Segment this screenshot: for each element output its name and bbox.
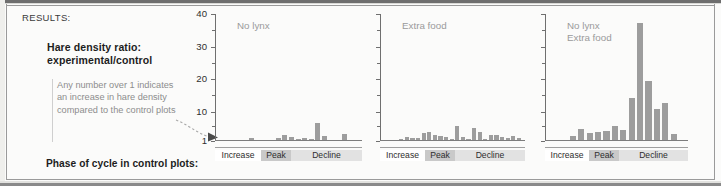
panel-top-border xyxy=(6,5,715,6)
bar xyxy=(517,138,521,140)
bar xyxy=(461,137,465,140)
bar xyxy=(296,139,301,140)
y-axis-tick-label: 1 xyxy=(183,135,207,146)
phase-segment-peak: Peak xyxy=(261,150,291,161)
bar xyxy=(603,131,609,140)
phase-segment-decline: Decline xyxy=(619,150,688,161)
phase-band-rule xyxy=(545,147,688,148)
bar xyxy=(483,139,487,140)
bar xyxy=(427,132,431,140)
y-axis-tick-label: 30 xyxy=(183,41,207,52)
y-axis-heading: Hare density ratio: experimental/control xyxy=(47,41,197,67)
bar xyxy=(422,133,426,140)
bar xyxy=(511,136,515,140)
bar xyxy=(450,139,454,140)
phase-band: IncreasePeakDecline xyxy=(215,150,362,161)
phase-segment-decline: Decline xyxy=(291,150,362,161)
phase-segment-label: Decline xyxy=(291,150,362,161)
bar xyxy=(342,134,347,141)
bar xyxy=(302,138,307,140)
bar xyxy=(629,98,635,140)
bar xyxy=(478,132,482,141)
note-text: Any number over 1 indicates an increase … xyxy=(57,79,179,116)
bar xyxy=(494,135,498,140)
phase-band: IncreasePeakDecline xyxy=(545,150,688,161)
chart-axis-tick xyxy=(541,141,545,142)
phase-segment-label: Increase xyxy=(215,150,261,161)
bar xyxy=(309,139,314,140)
bar xyxy=(595,132,601,140)
phase-segment-label: Peak xyxy=(589,150,619,161)
bar xyxy=(472,128,476,140)
bar xyxy=(662,103,668,140)
bar xyxy=(466,139,470,140)
bar xyxy=(455,126,459,140)
bar xyxy=(587,133,593,140)
phase-segment-peak: Peak xyxy=(425,150,455,161)
phase-band-rule xyxy=(215,147,362,148)
plot-area xyxy=(380,14,525,140)
phase-segment-peak: Peak xyxy=(589,150,619,161)
bar xyxy=(671,134,677,141)
bar xyxy=(645,81,651,140)
panel-bottom-border xyxy=(6,179,715,180)
bar xyxy=(322,136,327,140)
bar xyxy=(637,23,643,140)
bar-chart-1: No lynx xyxy=(215,14,362,141)
phase-segment-label: Increase xyxy=(380,150,425,161)
baseline-at-one xyxy=(380,140,525,141)
plot-area xyxy=(545,14,688,140)
page-bottom-rule xyxy=(0,183,721,186)
bar xyxy=(570,136,576,140)
note-divider xyxy=(52,79,53,142)
plot-area xyxy=(215,14,362,140)
baseline-at-one xyxy=(215,140,362,141)
bar xyxy=(282,135,287,140)
panel-right-border xyxy=(714,4,715,180)
phase-band-rule xyxy=(380,147,525,148)
page-top-rule-secondary xyxy=(0,3,721,4)
bar xyxy=(433,135,437,140)
panel-left-border xyxy=(6,4,7,180)
chart-axis-tick xyxy=(376,141,380,142)
phase-segment-increase: Increase xyxy=(380,150,425,161)
phase-axis-title: Phase of cycle in control plots: xyxy=(46,158,198,169)
bar xyxy=(276,138,281,140)
phase-segment-label: Decline xyxy=(619,150,688,161)
baseline-at-one xyxy=(545,140,688,141)
bar xyxy=(315,123,320,140)
bar xyxy=(438,136,442,140)
phase-band: IncreasePeakDecline xyxy=(380,150,525,161)
y-axis-tick-label: 10 xyxy=(183,106,207,117)
phase-segment-label: Peak xyxy=(261,150,291,161)
bar xyxy=(654,109,660,140)
bar xyxy=(399,139,403,140)
phase-segment-decline: Decline xyxy=(455,150,525,161)
bar xyxy=(410,138,414,140)
y-axis-major-tick xyxy=(211,141,215,142)
bar xyxy=(506,138,510,140)
results-label: RESULTS: xyxy=(22,12,71,23)
bar xyxy=(249,138,254,140)
phase-segment-increase: Increase xyxy=(215,150,261,161)
bar xyxy=(405,137,409,140)
phase-segment-label: Peak xyxy=(425,150,455,161)
bar-chart-3: No lynx Extra food xyxy=(545,14,688,141)
phase-segment-increase: Increase xyxy=(545,150,589,161)
page-left-rail xyxy=(0,0,5,186)
bar xyxy=(489,135,493,140)
bar xyxy=(289,137,294,140)
y-axis-tick-label: 40 xyxy=(183,8,207,19)
phase-segment-label: Increase xyxy=(545,150,589,161)
y-axis-tick-label: 20 xyxy=(183,73,207,84)
results-figure-panel: RESULTS: Hare density ratio: experimenta… xyxy=(0,0,721,186)
bar xyxy=(578,129,584,140)
bar xyxy=(500,137,504,140)
bar xyxy=(620,130,626,140)
bar xyxy=(612,126,618,140)
bar xyxy=(444,137,448,140)
phase-segment-label: Decline xyxy=(455,150,525,161)
bar-chart-2: Extra food xyxy=(380,14,525,141)
bar xyxy=(416,138,420,140)
